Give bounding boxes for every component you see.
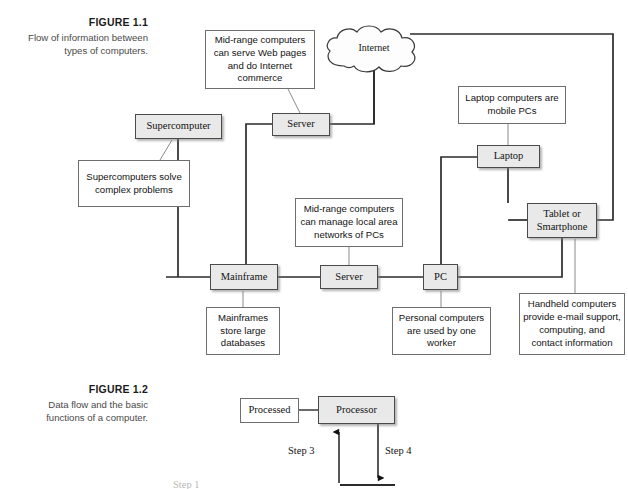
node-pc[interactable]: PC	[423, 264, 458, 290]
step-4-label: Step 4	[385, 445, 412, 456]
node-laptop[interactable]: Laptop	[477, 145, 540, 168]
node-supercomputer-label: Supercomputer	[146, 120, 210, 132]
leader-midrange-web-to-server	[288, 89, 300, 113]
note-midrange-manage-lan: Mid-range computers can manage local are…	[295, 198, 403, 247]
note-personal-computers-one-worker-text: Personal computers are used by one worke…	[396, 312, 487, 351]
node-mainframe-label: Mainframe	[221, 271, 268, 283]
connector-laptop-to-pc	[441, 157, 477, 264]
node-laptop-label: Laptop	[494, 150, 524, 162]
node-server-top-label: Server	[287, 118, 314, 130]
figure-1-2-caption: FIGURE 1.2 Data flow and the basic funct…	[8, 383, 148, 424]
node-supercomputer[interactable]: Supercomputer	[135, 114, 222, 139]
node-server-mid-label: Server	[335, 271, 362, 283]
node-processor[interactable]: Processor	[318, 396, 395, 424]
connector-pc-to-tablet	[458, 238, 562, 277]
internet-cloud-label: Internet	[324, 42, 424, 53]
internet-cloud-label-text: Internet	[358, 42, 389, 53]
node-processor-label: Processor	[336, 404, 377, 416]
note-midrange-web-commerce-text: Mid-range computers can serve Web pages …	[209, 34, 311, 85]
note-midrange-manage-lan-text: Mid-range computers can manage local are…	[299, 203, 399, 242]
step-4-label-text: Step 4	[385, 445, 412, 456]
figure-1-2-label: FIGURE 1.2	[8, 383, 148, 397]
connector-server-to-internet	[330, 70, 374, 124]
note-midrange-web-commerce: Mid-range computers can serve Web pages …	[205, 30, 315, 89]
figure-1-2-description: Data flow and the basic functions of a c…	[8, 399, 148, 424]
leader-supercomputers-to-supercomputer	[160, 140, 172, 160]
figure-page: FIGURE 1.1 Flow of information between t…	[0, 0, 628, 489]
step-1-label: Step 1	[173, 479, 200, 489]
note-mainframes-store-databases: Mainframes store large databases	[206, 307, 280, 355]
note-supercomputers-solve-problems: Supercomputers solve complex problems	[78, 160, 190, 207]
note-laptop-mobile-pcs: Laptop computers are mobile PCs	[458, 86, 566, 124]
figure-1-1-label: FIGURE 1.1	[8, 16, 148, 30]
step-1-label-text: Step 1	[173, 479, 200, 489]
node-tablet-or-smartphone-label-line2: Smartphone	[537, 221, 588, 233]
note-supercomputers-solve-problems-text: Supercomputers solve complex problems	[82, 171, 186, 197]
step-3-label-text: Step 3	[288, 445, 315, 456]
figure-1-1-description: Flow of information between types of com…	[8, 32, 148, 57]
node-mainframe[interactable]: Mainframe	[210, 264, 278, 290]
node-processed-label: Processed	[249, 403, 291, 417]
node-server-mid[interactable]: Server	[320, 265, 378, 289]
connector-internet-to-tablet	[410, 34, 613, 220]
node-server-top[interactable]: Server	[272, 113, 330, 136]
connector-server-to-mainframe-trunk	[246, 124, 272, 277]
figure-1-1-caption: FIGURE 1.1 Flow of information between t…	[8, 16, 148, 57]
step-3-label: Step 3	[288, 445, 315, 456]
node-processed[interactable]: Processed	[240, 398, 299, 423]
note-handheld-email-support-text: Handheld computers provide e-mail suppor…	[523, 298, 621, 349]
note-laptop-mobile-pcs-text: Laptop computers are mobile PCs	[462, 92, 562, 118]
node-tablet-or-smartphone-label-line1: Tablet or	[543, 208, 580, 220]
note-handheld-email-support: Handheld computers provide e-mail suppor…	[519, 293, 625, 355]
note-mainframes-store-databases-text: Mainframes store large databases	[210, 312, 276, 351]
node-pc-label: PC	[434, 271, 447, 283]
figure2-step-arrows	[339, 424, 378, 483]
note-personal-computers-one-worker: Personal computers are used by one worke…	[392, 307, 491, 355]
node-tablet-or-smartphone[interactable]: Tablet or Smartphone	[527, 203, 597, 238]
